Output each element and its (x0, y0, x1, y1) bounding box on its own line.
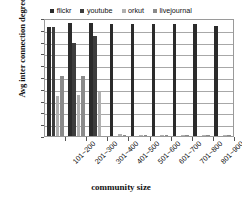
y-tick-mark (41, 90, 44, 91)
bar-youtube[interactable] (93, 36, 97, 136)
x-tick-label: 201~300 (93, 140, 118, 165)
bar-flickr[interactable] (152, 24, 156, 136)
bar-group (129, 20, 150, 136)
legend-item-youtube[interactable]: youtube (80, 7, 112, 14)
x-tick-label: 101~200 (72, 140, 97, 165)
bar-livejournal[interactable] (185, 135, 189, 136)
x-axis-ticks: 101~200201~300301~400401~500501~600601~7… (44, 140, 234, 173)
y-tick-mark (41, 66, 44, 67)
bar-livejournal[interactable] (227, 135, 231, 136)
y-tick-mark (41, 54, 44, 55)
legend-item-orkut[interactable]: orkut (122, 7, 144, 14)
bar-orkut[interactable] (98, 92, 102, 136)
bar-orkut[interactable] (118, 134, 122, 136)
plot-wrapper: 10.90.80.70.60.50.40.30.20.10 (44, 19, 234, 137)
legend-item-livejournal[interactable]: livejournal (153, 7, 192, 14)
bar-flickr[interactable] (47, 27, 51, 136)
bar-orkut[interactable] (139, 135, 143, 136)
bar-orkut[interactable] (77, 95, 81, 136)
y-tick-mark (41, 31, 44, 32)
bar-livejournal[interactable] (165, 135, 169, 136)
bar-flickr[interactable] (89, 23, 93, 136)
bar-orkut[interactable] (181, 135, 185, 136)
bar-orkut[interactable] (202, 135, 206, 136)
bar-group (108, 20, 129, 136)
bar-youtube[interactable] (52, 27, 56, 136)
bar-groups (45, 20, 233, 136)
bar-flickr[interactable] (110, 24, 114, 136)
legend-label: orkut (128, 7, 144, 14)
bar-group (66, 20, 87, 136)
bar-flickr[interactable] (68, 23, 72, 136)
bar-group (45, 20, 66, 136)
bar-livejournal[interactable] (81, 76, 85, 136)
legend-label: youtube (87, 7, 113, 14)
y-tick-mark (41, 78, 44, 79)
bar-group (87, 20, 108, 136)
bar-livejournal[interactable] (123, 135, 127, 136)
legend-swatch-icon (50, 9, 54, 13)
bar-flickr[interactable] (131, 24, 135, 136)
legend-swatch-icon (153, 9, 157, 13)
legend-item-flickr[interactable]: flickr (50, 7, 71, 14)
chart-legend: flickryoutubeorkutlivejournal (0, 5, 242, 17)
bar-livejournal[interactable] (206, 135, 210, 136)
bar-livejournal[interactable] (60, 76, 64, 136)
y-axis-title: Avg inter connection degree (17, 0, 27, 101)
bar-group (212, 20, 233, 136)
bar-flickr[interactable] (193, 24, 197, 136)
bar-orkut[interactable] (56, 96, 60, 136)
bar-flickr[interactable] (214, 26, 218, 136)
x-tick-mark (234, 137, 235, 141)
bar-group (149, 20, 170, 136)
legend-label: livejournal (159, 7, 191, 14)
legend-label: flickr (57, 7, 72, 14)
bar-orkut[interactable] (223, 135, 227, 136)
y-tick-mark (41, 43, 44, 44)
y-tick-mark (41, 102, 44, 103)
bar-group (191, 20, 212, 136)
y-tick-mark (41, 113, 44, 114)
bar-livejournal[interactable] (144, 135, 148, 136)
y-tick-mark (41, 125, 44, 126)
bar-youtube[interactable] (72, 43, 76, 136)
bar-flickr[interactable] (173, 24, 177, 136)
bar-group (170, 20, 191, 136)
x-axis-title: community size (0, 182, 242, 192)
bar-orkut[interactable] (160, 135, 164, 136)
legend-swatch-icon (122, 9, 126, 13)
legend-swatch-icon (80, 9, 84, 13)
bar-chart: flickryoutubeorkutlivejournal Avg inter … (0, 0, 242, 198)
y-tick-mark (41, 19, 44, 20)
plot-area (44, 19, 234, 137)
